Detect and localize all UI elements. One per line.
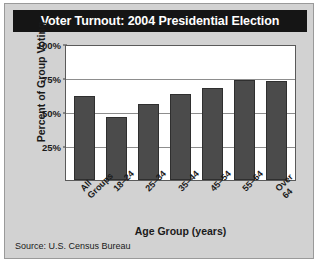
y-tick-label-100: 100% bbox=[37, 40, 61, 51]
y-tick-label-50: 50% bbox=[42, 108, 61, 119]
bar-all-groups bbox=[74, 96, 95, 180]
y-tick-label-75: 75% bbox=[42, 74, 61, 85]
chart-plot-wrapper: Percent of Group Voting 100% 75% 50% 25%… bbox=[5, 4, 315, 260]
source-note: Source: U.S. Census Bureau bbox=[15, 241, 131, 251]
y-tick-label-25: 25% bbox=[42, 142, 61, 153]
x-axis-tick-labels: All Groups18–2425–3435–4445–5455–64Over … bbox=[65, 183, 296, 225]
x-axis-title: Age Group (years) bbox=[65, 225, 296, 237]
y-axis-tick-labels: 100% 75% 50% 25% bbox=[27, 40, 63, 186]
chart-card: Voter Turnout: 2004 Presidential Electio… bbox=[4, 3, 314, 259]
